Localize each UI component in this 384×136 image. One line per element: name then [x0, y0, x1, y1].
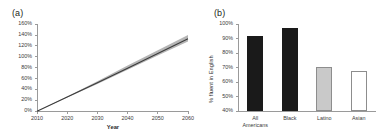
panel-b-y-tick [236, 38, 239, 39]
bar-3 [316, 67, 332, 111]
panel-b-y-tick-label: 100% [209, 21, 233, 26]
bar-2 [282, 28, 298, 112]
bar-1 [247, 36, 263, 112]
panel-a-series-plot [0, 0, 192, 136]
category-label-4: Asian [329, 115, 384, 122]
panel-b-y-tick [236, 111, 239, 112]
panel-b-bar-chart: (b) 40%50%60%70%80%90%100% All Americans… [192, 0, 384, 136]
panel-b-y-tick [236, 53, 239, 54]
panel-a-x-axis-title: Year [107, 124, 119, 130]
panel-b-y-axis-title: % fluent in English [208, 55, 214, 103]
panel-b-y-tick [236, 67, 239, 68]
panel-b-label: (b) [214, 8, 225, 18]
panel-b-y-tick [236, 82, 239, 83]
bar-4 [351, 71, 367, 112]
uncertainty-band [37, 35, 188, 111]
panel-b-y-axis [238, 24, 239, 112]
trend-line [37, 39, 188, 111]
panel-b-y-tick-label: 40% [209, 108, 233, 113]
panel-a-line-chart: (a) 0%20%40%60%80%100%120%140%160% 20102… [0, 0, 192, 136]
panel-b-y-tick [236, 24, 239, 25]
figure-container: (a) 0%20%40%60%80%100%120%140%160% 20102… [0, 0, 384, 136]
panel-b-y-tick-label: 90% [209, 36, 233, 41]
panel-b-y-tick [236, 96, 239, 97]
panel-b-x-axis [238, 111, 376, 112]
